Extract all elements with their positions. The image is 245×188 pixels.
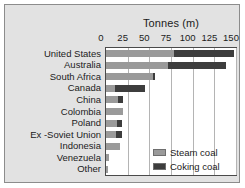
bar-segment-steam-coal [106, 108, 123, 115]
legend-item: Coking coal [153, 161, 220, 172]
y-category-label: Canada [68, 83, 101, 93]
legend-label: Steam coal [170, 148, 218, 158]
x-tick-label: 25 [117, 32, 128, 43]
bar-segment-steam-coal [106, 131, 116, 138]
bar-segment-steam-coal [106, 143, 120, 150]
y-category-label: China [76, 95, 101, 105]
x-tick-label: 75 [161, 32, 172, 43]
legend-swatch-steam-coal [153, 149, 166, 156]
bar-segment-steam-coal [106, 85, 115, 92]
bar-row [106, 62, 236, 69]
y-axis-category-labels: United StatesAustraliaSouth AfricaCanada… [11, 48, 103, 176]
bar-row [106, 50, 236, 57]
chart-screenshot: Tonnes (m) 0255075100125150 United State… [0, 0, 245, 188]
gridline [236, 48, 237, 175]
bar-segment-coking-coal [115, 85, 145, 92]
chart-legend: Steam coalCoking coal [153, 147, 233, 175]
y-category-label: Australia [64, 60, 101, 70]
legend-label: Coking coal [170, 162, 220, 172]
chart-panel: Tonnes (m) 0255075100125150 United State… [4, 4, 240, 183]
legend-item: Steam coal [153, 147, 218, 158]
bar-segment-coking-coal [174, 50, 235, 57]
y-category-label: Poland [71, 118, 101, 128]
y-category-label: Venezuela [57, 153, 101, 163]
bar-row [106, 120, 236, 127]
legend-swatch-coking-coal [153, 163, 166, 170]
bar-row [106, 131, 236, 138]
y-category-label: Other [77, 164, 101, 174]
x-axis-tick-labels: 0255075100125150 [101, 32, 241, 44]
bar-segment-coking-coal [168, 62, 225, 69]
bar-segment-steam-coal [106, 120, 117, 127]
bar-row [106, 96, 236, 103]
bar-row [106, 108, 236, 115]
y-category-label: United States [44, 49, 101, 59]
chart-title: Tonnes (m) [101, 17, 241, 29]
x-tick-label: 100 [180, 32, 196, 43]
bar-row [106, 73, 236, 80]
x-tick-label: 0 [98, 32, 103, 43]
bar-segment-coking-coal [153, 73, 155, 80]
bar-segment-coking-coal [116, 131, 122, 138]
x-tick-label: 125 [201, 32, 217, 43]
y-category-label: Colombia [61, 107, 101, 117]
bar-segment-steam-coal [106, 154, 109, 161]
bar-segment-steam-coal [106, 166, 108, 173]
bar-segment-steam-coal [106, 73, 153, 80]
bar-row [106, 85, 236, 92]
y-category-label: Ex -Soviet Union [30, 130, 101, 140]
bar-segment-coking-coal [118, 96, 123, 103]
y-category-label: South Africa [50, 72, 101, 82]
bar-segment-coking-coal [117, 120, 121, 127]
bar-segment-steam-coal [106, 62, 168, 69]
bar-segment-steam-coal [106, 96, 118, 103]
x-tick-label: 50 [139, 32, 150, 43]
x-tick-label: 150 [223, 32, 239, 43]
bar-segment-steam-coal [106, 50, 174, 57]
y-category-label: Indonesia [60, 141, 101, 151]
